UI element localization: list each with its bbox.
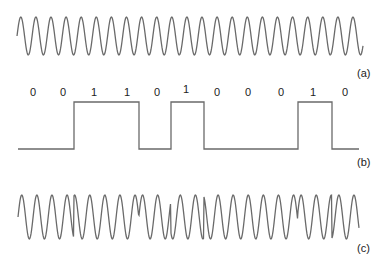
carrier-sine-wave	[17, 17, 363, 55]
diagram-canvas	[0, 0, 383, 262]
bit-label: 1	[183, 83, 189, 95]
panel-label-c: (c)	[357, 242, 370, 254]
bit-label: 1	[310, 86, 316, 98]
bit-label: 1	[91, 86, 97, 98]
bit-label: 0	[60, 86, 66, 98]
bit-label: 0	[154, 86, 160, 98]
bit-label: 0	[214, 86, 220, 98]
panel-label-a: (a)	[357, 67, 370, 79]
psk-modulated-wave	[18, 195, 359, 239]
bit-label: 0	[278, 86, 284, 98]
bit-label: 0	[245, 86, 251, 98]
bit-label: 0	[30, 86, 36, 98]
bit-label: 1	[124, 86, 130, 98]
bit-label: 0	[342, 86, 348, 98]
binary-square-wave	[18, 102, 359, 149]
panel-label-b: (b)	[357, 156, 370, 168]
